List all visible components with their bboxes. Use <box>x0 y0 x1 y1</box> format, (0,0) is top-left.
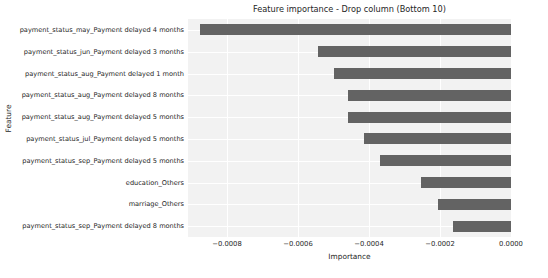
chart-title: Feature importance - Drop column (Bottom… <box>188 4 511 14</box>
y-axis-tick-labels: payment_status_may_Payment delayed 4 mon… <box>0 19 184 237</box>
bar <box>318 46 511 57</box>
bar <box>200 24 511 35</box>
y-axis-label: Feature <box>4 89 13 149</box>
bar <box>421 177 511 188</box>
bar <box>453 221 511 232</box>
y-tick-label: marriage_Others <box>129 200 184 208</box>
y-tick-label: payment_status_jun_Payment delayed 3 mon… <box>24 48 184 56</box>
x-tick-label: −0.0002 <box>425 240 454 248</box>
chart-figure: Feature importance - Drop column (Bottom… <box>0 0 548 278</box>
y-tick-label: payment_status_may_Payment delayed 4 mon… <box>20 26 184 34</box>
x-tick-label: −0.0006 <box>283 240 312 248</box>
bar <box>348 90 511 101</box>
y-tick-label: payment_status_aug_Payment delayed 1 mon… <box>25 70 184 78</box>
x-tick-label: −0.0008 <box>212 240 241 248</box>
plot-area <box>188 19 511 237</box>
x-tick-label: −0.0004 <box>354 240 383 248</box>
x-axis-tick-labels: −0.0008−0.0006−0.0004−0.00020.0000 <box>188 240 511 252</box>
y-tick-label: education_Others <box>126 179 184 187</box>
x-axis-label: Importance <box>188 252 511 261</box>
bar <box>348 112 511 123</box>
bar <box>438 199 511 210</box>
bar <box>364 133 511 144</box>
y-tick-label: payment_status_jul_Payment delayed 5 mon… <box>26 135 184 143</box>
bar <box>380 155 511 166</box>
bar <box>334 68 511 79</box>
y-tick-label: payment_status_sep_Payment delayed 5 mon… <box>22 157 184 165</box>
x-tick-label: 0.0000 <box>499 240 523 248</box>
y-tick-label: payment_status_aug_Payment delayed 8 mon… <box>22 91 184 99</box>
y-tick-label: payment_status_aug_Payment delayed 5 mon… <box>22 113 184 121</box>
y-tick-label: payment_status_sep_Payment delayed 8 mon… <box>22 222 184 230</box>
